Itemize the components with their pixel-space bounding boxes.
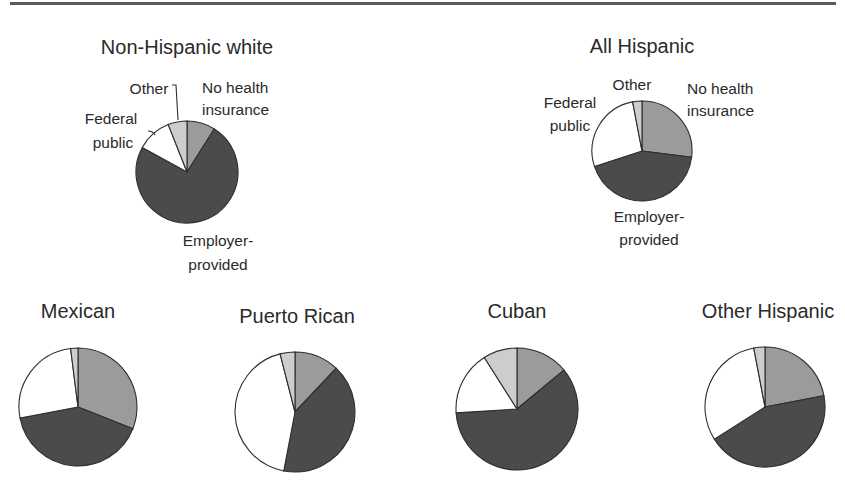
pie [705, 347, 825, 467]
pie [19, 348, 137, 466]
label-no-health-line1: No health [202, 79, 268, 96]
chart-title: Cuban [488, 300, 547, 322]
chart-title: All Hispanic [590, 35, 694, 57]
slice-no-health-insurance [642, 101, 692, 157]
label-employer-line1: Employer- [614, 208, 685, 225]
pie-chart-puerto-rican: Puerto Rican [235, 305, 355, 472]
pie-chart-other-hispanic: Other Hispanic [702, 300, 834, 467]
label-other: Other [613, 76, 652, 93]
label-federal-line2: public [550, 117, 591, 134]
label-no-health-line1: No health [687, 80, 753, 97]
pie-chart-all-hispanic: All Hispanic Other No health insurance F… [544, 35, 755, 248]
pie [592, 101, 692, 201]
chart-title: Puerto Rican [239, 305, 355, 327]
pie-chart-cuban: Cuban [456, 300, 578, 470]
label-no-health-line2: insurance [202, 101, 269, 118]
chart-title: Other Hispanic [702, 300, 834, 322]
pie [456, 348, 578, 470]
chart-title: Mexican [41, 300, 115, 322]
pie [235, 352, 355, 472]
leader-line-other [172, 85, 178, 120]
label-employer-line2: provided [188, 256, 247, 273]
pie-chart-mexican: Mexican [19, 300, 137, 466]
label-federal-line1: Federal [544, 94, 597, 111]
label-federal-line1: Federal [85, 110, 138, 127]
slice-federal-public [19, 348, 78, 418]
pie [136, 121, 238, 223]
chart-title: Non-Hispanic white [101, 36, 273, 58]
label-no-health-line2: insurance [687, 102, 754, 119]
label-federal-line2: public [93, 134, 134, 151]
label-employer-line1: Employer- [183, 232, 254, 249]
pie-charts-figure: Non-Hispanic white Other No health insur… [0, 0, 845, 502]
label-other: Other [130, 80, 169, 97]
pie-chart-non-hispanic-white: Non-Hispanic white Other No health insur… [85, 36, 273, 273]
label-employer-line2: provided [619, 231, 678, 248]
